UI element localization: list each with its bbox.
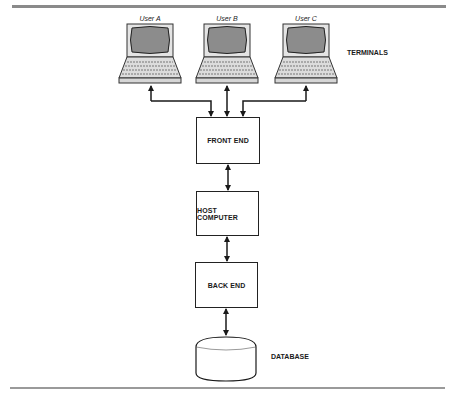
back-end-box: BACK END (195, 262, 258, 308)
front-end-label: FRONT END (207, 137, 249, 144)
back-end-label: BACK END (208, 282, 246, 289)
front-end-box: FRONT END (196, 117, 260, 164)
user-b-label: User B (197, 15, 257, 22)
bottom-rule (10, 387, 445, 389)
laptop-icon-user-b (196, 24, 258, 83)
laptop-icon-user-c (275, 24, 337, 83)
terminals-label: TERMINALS (347, 49, 388, 56)
user-a-label: User A (120, 15, 180, 22)
laptop-icon-user-a (119, 24, 181, 83)
database-cylinder-icon (196, 337, 256, 381)
user-c-label: User C (276, 15, 336, 22)
database-label: DATABASE (271, 353, 309, 360)
connector-user-a-route (151, 101, 211, 116)
connector-user-c-route (243, 101, 306, 116)
host-computer-label: HOST COMPUTER (197, 207, 258, 221)
host-computer-box: HOST COMPUTER (196, 191, 259, 236)
